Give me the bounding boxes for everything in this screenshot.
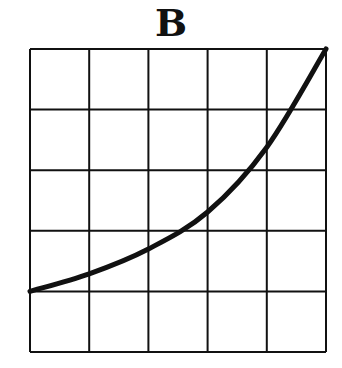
plot-area	[0, 0, 342, 368]
grid-lines	[30, 49, 326, 352]
